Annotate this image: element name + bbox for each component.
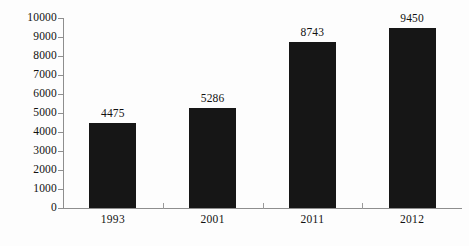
y-axis-tick: [58, 113, 64, 114]
y-axis-tick: [58, 75, 64, 76]
y-axis-tick-label: 7000: [7, 69, 57, 81]
bar: [189, 108, 236, 208]
y-axis-tick-label: 8000: [7, 50, 57, 62]
x-axis-category-label: 1993: [63, 214, 163, 226]
bar: [389, 28, 436, 208]
y-axis-tick-label: 9000: [7, 31, 57, 43]
y-axis-tick: [58, 151, 64, 152]
bar-value-label: 4475: [101, 108, 125, 120]
y-axis-tick-label: 3000: [7, 145, 57, 157]
y-axis-tick: [58, 56, 64, 57]
x-axis-separator: [263, 203, 264, 209]
y-axis-tick-label: 2000: [7, 164, 57, 176]
bar-value-label: 5286: [201, 93, 225, 105]
x-axis-category-label: 2011: [263, 214, 363, 226]
y-axis-tick-label: 10000: [7, 12, 57, 24]
y-axis-tick-label: 4000: [7, 126, 57, 138]
y-axis-tick-label: 0: [7, 202, 57, 214]
y-axis-tick-label: 5000: [7, 107, 57, 119]
x-axis-category-label: 2001: [163, 214, 263, 226]
y-axis-tick: [58, 132, 64, 133]
x-axis-category-label: 2012: [362, 214, 462, 226]
x-axis-separator: [163, 203, 164, 209]
y-axis-tick: [58, 18, 64, 19]
y-axis-tick-label: 6000: [7, 88, 57, 100]
bar-value-label: 9450: [400, 13, 424, 25]
bar: [289, 42, 336, 208]
y-axis-tick: [58, 189, 64, 190]
y-axis-tick: [58, 94, 64, 95]
bar-chart: 1000090008000700060005000400030002000100…: [0, 0, 469, 246]
y-axis-tick-label: 1000: [7, 183, 57, 195]
y-axis-tick: [58, 37, 64, 38]
x-axis-separator: [362, 203, 363, 209]
y-axis-tick: [58, 170, 64, 171]
bar-value-label: 8743: [300, 27, 324, 39]
bar: [89, 123, 136, 208]
y-axis-tick: [58, 208, 64, 209]
